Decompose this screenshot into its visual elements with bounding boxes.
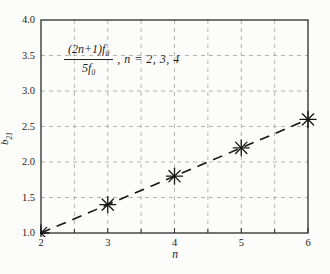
y-tick-label: 3.5 — [13, 50, 35, 62]
formula-numerator-subscript: 0 — [105, 49, 109, 58]
y-axis-label: b21 — [0, 124, 14, 154]
y-tick-label: 2.0 — [13, 156, 35, 168]
y-tick-label: 4.0 — [13, 14, 35, 26]
formula-numerator: (2n+1)f0 — [64, 42, 113, 60]
y-axis-label-main: b — [0, 140, 10, 146]
line-chart-figure: 1.01.52.02.53.03.54.023456 n b21 (2n+1)f… — [0, 0, 330, 274]
y-axis-label-sub: 21 — [5, 132, 14, 140]
formula-annotation: (2n+1)f0 5f0 , n = 2, 3, 4 — [64, 42, 180, 78]
x-tick-label: 2 — [31, 237, 51, 249]
data-point-marker — [300, 111, 316, 127]
x-axis-label: n — [165, 248, 185, 260]
data-point-marker — [167, 168, 183, 184]
y-tick-label: 2.5 — [13, 121, 35, 133]
x-tick-label: 6 — [298, 237, 318, 249]
formula-denominator: 5f0 — [64, 60, 113, 77]
data-point-marker — [233, 140, 249, 156]
x-tick-label: 3 — [98, 237, 118, 249]
formula-condition: , n = 2, 3, 4 — [117, 52, 180, 67]
formula-fraction: (2n+1)f0 5f0 — [64, 42, 113, 78]
y-tick-label: 3.0 — [13, 85, 35, 97]
formula-numerator-text: (2n+1)f — [68, 42, 105, 56]
formula-denominator-subscript: 0 — [91, 69, 95, 78]
formula-denominator-text: 5f — [82, 61, 91, 75]
x-tick-label: 5 — [231, 237, 251, 249]
data-point-marker — [100, 197, 116, 213]
y-tick-label: 1.5 — [13, 192, 35, 204]
